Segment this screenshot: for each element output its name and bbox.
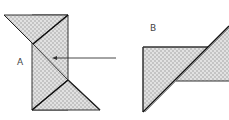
label-a: A	[17, 57, 24, 67]
shape-b	[143, 26, 229, 112]
diagram-canvas: A B	[0, 0, 229, 120]
label-b: B	[150, 23, 156, 33]
